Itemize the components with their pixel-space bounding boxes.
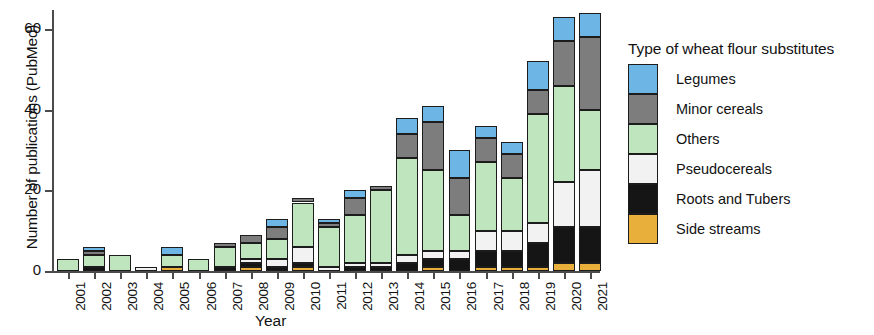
legend-item[interactable]: Others <box>628 124 874 154</box>
bar-segment <box>370 190 392 263</box>
bar-segment <box>527 90 549 114</box>
x-tick <box>407 272 409 279</box>
bar-segment <box>501 251 523 267</box>
bar-2019 <box>527 61 549 271</box>
bar-segment <box>553 182 575 226</box>
bar-segment <box>475 251 497 267</box>
bar-2020 <box>553 17 575 271</box>
bar-segment <box>240 263 262 267</box>
bar-segment <box>266 219 288 227</box>
y-tick-label: 60 <box>24 19 41 36</box>
bar-segment <box>318 227 340 267</box>
bar-segment <box>579 263 601 271</box>
bar-segment <box>161 255 183 267</box>
x-tick-label: 2002 <box>99 282 114 311</box>
x-tick <box>94 272 96 279</box>
legend-swatch <box>628 64 658 94</box>
plot-area: 0204060 20012002200320042005200620072008… <box>52 10 600 272</box>
bar-segment <box>188 259 210 271</box>
x-tick <box>355 272 357 279</box>
bar-segment <box>396 134 418 158</box>
bar-segment <box>344 267 366 271</box>
bar-segment <box>475 138 497 162</box>
bar-segment <box>501 267 523 271</box>
bar-segment <box>240 235 262 243</box>
bar-segment <box>292 198 314 202</box>
bar-2017 <box>475 126 497 271</box>
bar-2018 <box>501 142 523 271</box>
bar-segment <box>449 215 471 251</box>
x-tick-label: 2001 <box>73 282 88 311</box>
bar-segment <box>344 198 366 214</box>
y-tick: 0 <box>45 271 52 273</box>
bar-segment <box>422 106 444 122</box>
legend-item[interactable]: Pseudocereals <box>628 154 874 184</box>
x-tick <box>120 272 122 279</box>
bar-segment <box>501 231 523 251</box>
bar-segment <box>318 219 340 223</box>
x-tick-label: 2010 <box>308 282 323 311</box>
x-tick-label: 2018 <box>517 282 532 311</box>
x-tick <box>146 272 148 279</box>
legend-item[interactable]: Roots and Tubers <box>628 184 874 214</box>
bar-segment <box>214 247 236 267</box>
bar-segment <box>449 178 471 214</box>
x-tick-label: 2013 <box>386 282 401 311</box>
legend-swatch <box>628 154 658 184</box>
bar-segment <box>370 186 392 190</box>
bar-segment <box>344 263 366 267</box>
x-tick-label: 2008 <box>256 282 271 311</box>
bar-segment <box>161 267 183 271</box>
legend-swatch <box>628 124 658 154</box>
x-axis-title: Year <box>255 312 286 330</box>
bar-segment <box>422 251 444 259</box>
y-tick: 20 <box>45 190 52 192</box>
bar-segment <box>553 263 575 271</box>
bar-segment <box>57 259 79 271</box>
x-tick-label: 2014 <box>412 282 427 311</box>
bar-2021 <box>579 13 601 271</box>
bar-segment <box>527 223 549 243</box>
x-tick-label: 2015 <box>438 282 453 311</box>
x-tick <box>251 272 253 279</box>
bar-segment <box>109 255 131 271</box>
bar-segment <box>266 227 288 239</box>
x-tick <box>303 272 305 279</box>
bar-segment <box>422 267 444 271</box>
x-tick-label: 2020 <box>569 282 584 311</box>
legend-item[interactable]: Legumes <box>628 64 874 94</box>
legend-item[interactable]: Side streams <box>628 214 874 244</box>
x-tick <box>199 272 201 279</box>
bar-2007 <box>214 243 236 271</box>
bar-segment <box>292 263 314 267</box>
bar-segment <box>527 267 549 271</box>
bar-segment <box>240 267 262 271</box>
bar-segment <box>449 150 471 178</box>
bar-2004 <box>135 267 157 271</box>
x-tick <box>564 272 566 279</box>
bar-segment <box>579 170 601 226</box>
bar-segment <box>475 126 497 138</box>
bar-segment <box>292 247 314 263</box>
bar-segment <box>292 267 314 271</box>
x-tick <box>68 272 70 279</box>
bar-segment <box>83 255 105 267</box>
bar-segment <box>475 267 497 271</box>
bar-segment <box>396 255 418 263</box>
bar-2010 <box>292 198 314 271</box>
x-axis-line <box>52 271 600 273</box>
legend-label: Minor cereals <box>676 101 763 117</box>
bar-segment <box>553 17 575 41</box>
bar-segment <box>318 267 340 271</box>
bar-segment <box>501 154 523 178</box>
bar-2005 <box>161 247 183 271</box>
legend-item[interactable]: Minor cereals <box>628 94 874 124</box>
bar-segment <box>579 13 601 37</box>
x-tick-label: 2003 <box>125 282 140 311</box>
bar-segment <box>501 178 523 230</box>
chart-figure: Number of publications (PubMed) 0204060 … <box>0 0 874 335</box>
bar-segment <box>396 118 418 134</box>
bar-segment <box>214 267 236 271</box>
x-tick-label: 2011 <box>334 282 349 310</box>
x-tick <box>512 272 514 279</box>
